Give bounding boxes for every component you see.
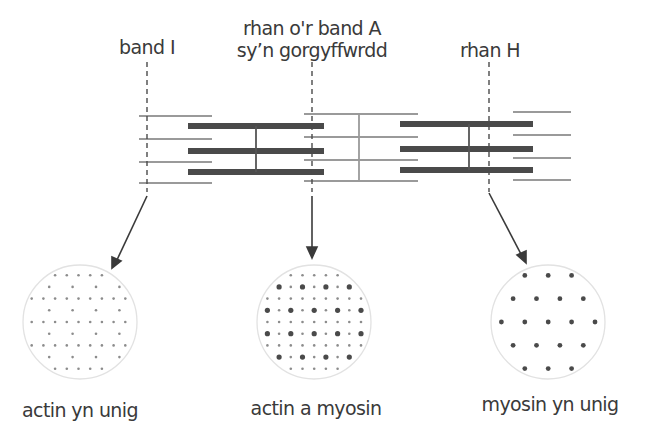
caption-actin-only: actin yn unig	[10, 399, 150, 422]
arrows	[112, 193, 526, 268]
sarcomere-diagram: band I rhan o'r band A sy’n gorgyffwrdd …	[0, 0, 649, 448]
sarcomere-drawing	[0, 0, 649, 448]
h-zone-label: rhan H	[450, 39, 530, 62]
caption-actin-myosin: actin a myosin	[232, 397, 400, 420]
overlap-label-line1: rhan o'r band A	[212, 17, 412, 40]
caption-myosin-only: myosin yn unig	[462, 393, 638, 416]
band-i-label: band I	[106, 36, 188, 59]
thick-filaments	[188, 124, 533, 172]
cross-section-myosin-only	[491, 265, 605, 379]
cross-section-actin-myosin	[257, 265, 371, 379]
cross-section-actin-only	[23, 265, 137, 379]
overlap-label-line2: sy’n gorgyffwrdd	[212, 39, 412, 62]
